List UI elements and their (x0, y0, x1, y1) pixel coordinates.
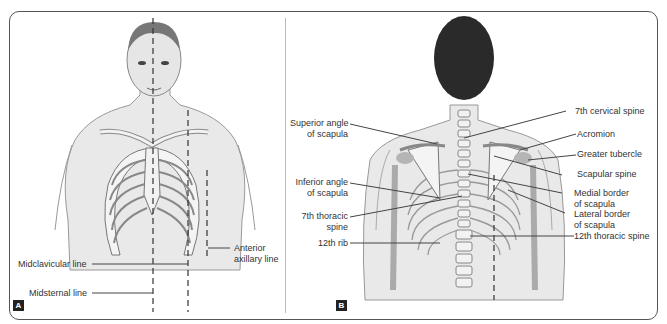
panel-a-badge: A (13, 300, 24, 311)
label-acromion: Acromion (577, 129, 615, 140)
label-7th-cervical-spine: 7th cervical spine (575, 106, 645, 117)
label-midsternal-line: Midsternal line (29, 288, 87, 299)
label-inferior-angle-of-scapula: Inferior angle of scapula (290, 177, 348, 199)
anatomy-illustration (0, 0, 667, 324)
label-superior-angle-of-scapula: Superior angle of scapula (290, 118, 348, 140)
label-greater-tubercle: Greater tubercle (577, 149, 642, 160)
label-12th-thoracic-spine: 12th thoracic spine (574, 231, 650, 242)
label-12th-rib: 12th rib (290, 238, 348, 249)
label-midclavicular-line: Midclavicular line (18, 259, 87, 270)
label-medial-border-of-scapula: Medial border of scapula (574, 188, 629, 210)
panel-b-badge: B (336, 300, 347, 311)
label-7th-thoracic-spine: 7th thoracic spine (290, 211, 348, 233)
posterior-torso-figure (350, 16, 576, 300)
label-scapular-spine: Scapular spine (577, 169, 637, 180)
label-lateral-border-of-scapula: Lateral border of scapula (574, 209, 630, 231)
label-anterior-axillary-line: Anterior axillary line (234, 243, 279, 265)
